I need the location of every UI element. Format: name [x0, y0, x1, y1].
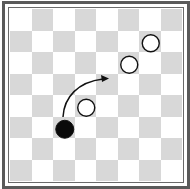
board-square-r2-c5[interactable]	[118, 52, 140, 74]
board-square-r1-c0[interactable]	[10, 31, 32, 53]
board-square-r0-c5[interactable]	[118, 9, 140, 31]
board-square-r7-c5[interactable]	[118, 160, 140, 182]
board-square-r0-c0[interactable]	[10, 9, 32, 31]
board-square-r0-c4[interactable]	[96, 9, 118, 31]
board-square-r6-c0[interactable]	[10, 138, 32, 160]
board-square-r2-c2[interactable]	[53, 52, 75, 74]
board-square-r3-c6[interactable]	[139, 74, 161, 96]
board-square-r3-c3[interactable]	[75, 74, 97, 96]
board-square-r0-c6[interactable]	[139, 9, 161, 31]
board-square-r3-c1[interactable]	[32, 74, 54, 96]
board-inner-border	[8, 7, 184, 183]
board-square-r6-c7[interactable]	[161, 138, 183, 160]
board-square-r4-c2[interactable]	[53, 95, 75, 117]
checkerboard	[10, 9, 182, 181]
board-square-r6-c2[interactable]	[53, 138, 75, 160]
board-square-r7-c1[interactable]	[32, 160, 54, 182]
board-square-r5-c3[interactable]	[75, 117, 97, 139]
board-square-r0-c1[interactable]	[32, 9, 54, 31]
board-square-r0-c7[interactable]	[161, 9, 183, 31]
board-square-r6-c4[interactable]	[96, 138, 118, 160]
board-square-r0-c3[interactable]	[75, 9, 97, 31]
board-square-r7-c6[interactable]	[139, 160, 161, 182]
board-square-r4-c4[interactable]	[96, 95, 118, 117]
board-square-r2-c6[interactable]	[139, 52, 161, 74]
board-square-r7-c2[interactable]	[53, 160, 75, 182]
board-frame	[2, 1, 190, 189]
board-square-r4-c6[interactable]	[139, 95, 161, 117]
board-square-r1-c3[interactable]	[75, 31, 97, 53]
board-square-r5-c4[interactable]	[96, 117, 118, 139]
board-square-r3-c5[interactable]	[118, 74, 140, 96]
board-square-r1-c2[interactable]	[53, 31, 75, 53]
board-square-r7-c4[interactable]	[96, 160, 118, 182]
board-square-r7-c3[interactable]	[75, 160, 97, 182]
board-square-r1-c4[interactable]	[96, 31, 118, 53]
board-square-r1-c5[interactable]	[118, 31, 140, 53]
board-square-r5-c2[interactable]	[53, 117, 75, 139]
board-square-r1-c1[interactable]	[32, 31, 54, 53]
board-square-r0-c2[interactable]	[53, 9, 75, 31]
board-square-r3-c7[interactable]	[161, 74, 183, 96]
board-square-r5-c1[interactable]	[32, 117, 54, 139]
board-square-r5-c5[interactable]	[118, 117, 140, 139]
board-square-r4-c0[interactable]	[10, 95, 32, 117]
board-square-r3-c0[interactable]	[10, 74, 32, 96]
board-square-r6-c6[interactable]	[139, 138, 161, 160]
board-square-r2-c1[interactable]	[32, 52, 54, 74]
board-square-r4-c5[interactable]	[118, 95, 140, 117]
board-square-r3-c4[interactable]	[96, 74, 118, 96]
board-square-r2-c3[interactable]	[75, 52, 97, 74]
board-square-r4-c7[interactable]	[161, 95, 183, 117]
board-square-r4-c3[interactable]	[75, 95, 97, 117]
board-square-r7-c0[interactable]	[10, 160, 32, 182]
board-square-r7-c7[interactable]	[161, 160, 183, 182]
board-square-r5-c7[interactable]	[161, 117, 183, 139]
board-square-r2-c4[interactable]	[96, 52, 118, 74]
board-square-r5-c6[interactable]	[139, 117, 161, 139]
board-square-r6-c3[interactable]	[75, 138, 97, 160]
board-square-r1-c6[interactable]	[139, 31, 161, 53]
board-square-r6-c5[interactable]	[118, 138, 140, 160]
board-square-r2-c7[interactable]	[161, 52, 183, 74]
board-square-r3-c2[interactable]	[53, 74, 75, 96]
board-square-r2-c0[interactable]	[10, 52, 32, 74]
board-square-r6-c1[interactable]	[32, 138, 54, 160]
board-square-r1-c7[interactable]	[161, 31, 183, 53]
board-square-r4-c1[interactable]	[32, 95, 54, 117]
board-square-r5-c0[interactable]	[10, 117, 32, 139]
